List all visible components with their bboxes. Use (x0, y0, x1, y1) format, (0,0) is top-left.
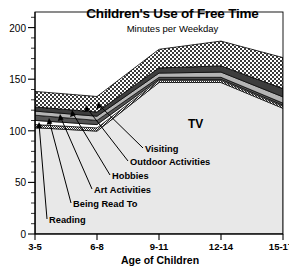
x-tick-label-3-5: 3-5 (13, 241, 57, 252)
y-tick-label-100: 100 (0, 131, 26, 142)
series-label-being-read-to: Being Read To (73, 199, 137, 209)
x-axis-title: Age of Children (35, 254, 285, 266)
y-minor-ticks (31, 17, 35, 223)
y-tick-label-150: 150 (0, 79, 26, 90)
y-tick-label-50: 50 (0, 182, 26, 193)
x-tick-label-15-17: 15-17 (259, 241, 289, 252)
series-label-tv: TV (188, 117, 203, 131)
chart-subtitle: Minutes per Weekday (60, 23, 285, 34)
series-label-outdoor-activities: Outdoor Activities (130, 157, 210, 167)
x-tick-label-9-11: 9-11 (137, 241, 181, 252)
series-label-hobbies: Hobbies (112, 171, 149, 181)
x-ticks (35, 234, 283, 240)
y-tick-label-200: 200 (0, 28, 26, 39)
x-tick-label-12-14: 12-14 (199, 241, 243, 252)
chart-figure: Children's Use of Free Time Minutes per … (0, 0, 289, 274)
x-tick-label-6-8: 6-8 (75, 241, 119, 252)
series-label-visiting: Visiting (145, 144, 178, 154)
plot-area: Children's Use of Free Time Minutes per … (0, 0, 289, 274)
series-label-reading: Reading (49, 215, 86, 225)
chart-title: Children's Use of Free Time (60, 6, 285, 21)
stacked-area-chart (0, 0, 289, 274)
series-label-art-activities: Art Activities (94, 185, 151, 195)
